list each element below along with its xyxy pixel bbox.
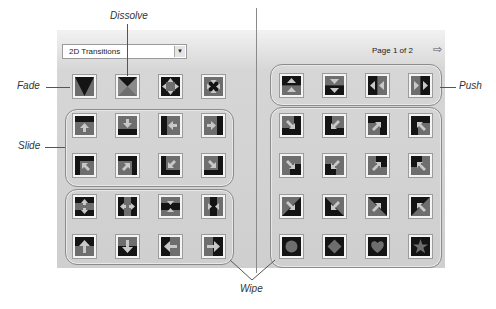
tile-slide-diag-up-left-2[interactable] bbox=[409, 154, 432, 177]
arrow-down-right-icon bbox=[282, 156, 301, 175]
page-indicator: Page 1 of 2 bbox=[372, 46, 413, 55]
tile-push-out-4way[interactable] bbox=[159, 75, 182, 98]
split-vertical-in-icon bbox=[161, 197, 180, 216]
arrow-down-icon bbox=[118, 237, 137, 256]
callout-fade: Fade bbox=[17, 80, 40, 91]
arrow-up-left-icon bbox=[75, 156, 94, 175]
tile-wipe-diamond[interactable] bbox=[323, 235, 346, 258]
callout-wipe: Wipe bbox=[240, 283, 263, 294]
chevron-down-icon[interactable]: ▼ bbox=[174, 46, 185, 57]
arrow-down-right-icon bbox=[282, 197, 301, 216]
arrow-down-icon bbox=[118, 116, 137, 135]
tile-wipe-down[interactable] bbox=[116, 235, 139, 258]
tile-dissolve[interactable] bbox=[116, 75, 139, 98]
callout-line-push bbox=[440, 87, 456, 88]
tile-slide-up-left[interactable] bbox=[73, 154, 96, 177]
tile-wipe-up[interactable] bbox=[73, 235, 96, 258]
push-left-icon bbox=[368, 76, 387, 95]
tile-wipe-split-vertical-out[interactable] bbox=[73, 195, 96, 218]
arrow-up-right-icon bbox=[118, 156, 137, 175]
tile-wipe-split-horizontal-out[interactable] bbox=[116, 195, 139, 218]
diamond-icon bbox=[325, 237, 344, 256]
tile-push-right[interactable] bbox=[409, 74, 432, 97]
four-way-arrows-in-icon bbox=[204, 77, 223, 96]
fade-icon bbox=[75, 77, 94, 96]
tile-wipe-split-vertical-in[interactable] bbox=[159, 195, 182, 218]
tile-slide-diag-down-left-2[interactable] bbox=[323, 154, 346, 177]
tile-slide-down-right[interactable] bbox=[159, 154, 182, 177]
arrow-right-icon bbox=[204, 116, 223, 135]
tile-wipe-diag-down-left[interactable] bbox=[323, 195, 346, 218]
tile-wipe-star[interactable] bbox=[409, 235, 432, 258]
arrow-up-icon bbox=[75, 237, 94, 256]
arrow-down-right-icon bbox=[282, 116, 301, 135]
tile-wipe-circle[interactable] bbox=[280, 235, 303, 258]
dissolve-icon bbox=[118, 77, 137, 96]
transition-category-select[interactable]: 2D Transitions ▼ bbox=[62, 44, 187, 59]
tile-slide-down[interactable] bbox=[116, 114, 139, 137]
arrow-up-icon bbox=[75, 116, 94, 135]
tile-wipe-heart[interactable] bbox=[366, 235, 389, 258]
arrow-left-icon bbox=[161, 116, 180, 135]
arrow-down-right-icon bbox=[161, 156, 180, 175]
four-way-arrows-out-icon bbox=[161, 77, 180, 96]
tile-slide-diag-up-left[interactable] bbox=[409, 114, 432, 137]
arrow-left-icon bbox=[161, 237, 180, 256]
callout-line-dissolve bbox=[127, 24, 128, 76]
split-horizontal-out-icon bbox=[118, 197, 137, 216]
tile-wipe-right[interactable] bbox=[202, 235, 225, 258]
tile-wipe-diag-up-left[interactable] bbox=[409, 195, 432, 218]
arrow-up-right-icon bbox=[368, 156, 387, 175]
tile-fade[interactable] bbox=[73, 75, 96, 98]
tile-slide-right[interactable] bbox=[202, 114, 225, 137]
push-down-icon bbox=[325, 76, 344, 95]
arrow-up-left-icon bbox=[411, 197, 430, 216]
arrow-up-right-icon bbox=[368, 197, 387, 216]
tile-push-down[interactable] bbox=[323, 74, 346, 97]
tile-slide-down-left[interactable] bbox=[202, 154, 225, 177]
tile-slide-diag-down-left[interactable] bbox=[323, 114, 346, 137]
callout-push: Push bbox=[459, 80, 482, 91]
star-icon bbox=[411, 237, 430, 256]
arrow-up-left-icon bbox=[411, 156, 430, 175]
tile-slide-up[interactable] bbox=[73, 114, 96, 137]
tile-wipe-left[interactable] bbox=[159, 235, 182, 258]
transition-category-value: 2D Transitions bbox=[69, 47, 120, 56]
callout-dissolve: Dissolve bbox=[110, 10, 148, 21]
callout-line-fade bbox=[46, 87, 70, 88]
tile-slide-diag-up-right[interactable] bbox=[366, 114, 389, 137]
tile-slide-left[interactable] bbox=[159, 114, 182, 137]
tile-wipe-split-horizontal-in[interactable] bbox=[202, 195, 225, 218]
arrow-right-icon bbox=[204, 237, 223, 256]
arrow-down-left-icon bbox=[325, 116, 344, 135]
tile-wipe-diag-down-right[interactable] bbox=[280, 195, 303, 218]
callout-line-wipe bbox=[225, 258, 280, 282]
arrow-up-left-icon bbox=[411, 116, 430, 135]
arrow-down-left-icon bbox=[325, 156, 344, 175]
push-right-icon bbox=[411, 76, 430, 95]
push-up-icon bbox=[282, 76, 301, 95]
tile-slide-up-right[interactable] bbox=[116, 154, 139, 177]
arrow-down-left-icon bbox=[204, 156, 223, 175]
next-page-icon[interactable]: ⇨ bbox=[433, 43, 442, 56]
tile-slide-diag-down-right[interactable] bbox=[280, 114, 303, 137]
arrow-up-right-icon bbox=[368, 116, 387, 135]
circle-icon bbox=[282, 237, 301, 256]
heart-icon bbox=[368, 237, 387, 256]
split-vertical-out-icon bbox=[75, 197, 94, 216]
page-divider bbox=[256, 8, 257, 273]
tile-slide-diag-up-right-2[interactable] bbox=[366, 154, 389, 177]
callout-line-slide bbox=[45, 147, 65, 148]
tile-slide-diag-down-right-2[interactable] bbox=[280, 154, 303, 177]
tile-wipe-diag-up-right[interactable] bbox=[366, 195, 389, 218]
arrow-down-left-icon bbox=[325, 197, 344, 216]
tile-push-up[interactable] bbox=[280, 74, 303, 97]
split-horizontal-in-icon bbox=[204, 197, 223, 216]
callout-slide: Slide bbox=[18, 140, 40, 151]
tile-push-left[interactable] bbox=[366, 74, 389, 97]
tile-push-in-4way[interactable] bbox=[202, 75, 225, 98]
